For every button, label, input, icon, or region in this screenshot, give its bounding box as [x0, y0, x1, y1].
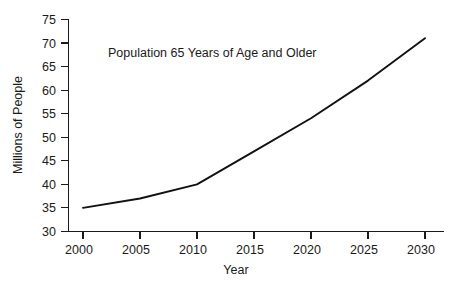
y-tick-label: 55: [42, 107, 56, 121]
x-tick-label: 2030: [407, 243, 435, 257]
x-tick-label: 2010: [179, 243, 207, 257]
y-tick-label: 35: [42, 201, 56, 215]
x-tick-label: 2020: [293, 243, 321, 257]
chart-canvas: 30 35 40 45 50 55 60 65 70 75 2000 2005 …: [0, 0, 470, 285]
x-tick-label: 2015: [236, 243, 264, 257]
y-tick-label: 30: [42, 225, 56, 239]
y-tick-label: 60: [42, 84, 56, 98]
chart-title: Population 65 Years of Age and Older: [108, 46, 317, 60]
x-axis-title: Year: [223, 263, 248, 277]
x-tick-label: 2025: [350, 243, 378, 257]
x-tick-label: 2000: [65, 243, 93, 257]
line-chart: 30 35 40 45 50 55 60 65 70 75 2000 2005 …: [0, 0, 470, 285]
y-tick-label: 50: [42, 131, 56, 145]
y-tick-label: 40: [42, 178, 56, 192]
y-tick-label: 65: [42, 60, 56, 74]
y-axis-title: Millions of People: [11, 76, 25, 174]
y-tick-label: 75: [42, 13, 56, 27]
y-tick-label: 45: [42, 154, 56, 168]
y-tick-label: 70: [42, 37, 56, 51]
x-tick-label: 2005: [122, 243, 150, 257]
